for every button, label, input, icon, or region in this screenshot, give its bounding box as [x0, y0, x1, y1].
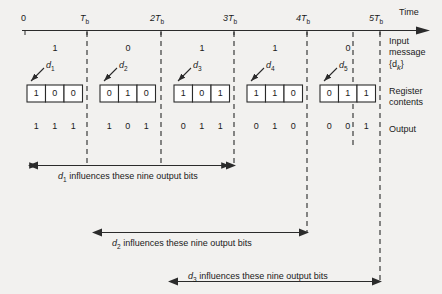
input-bit-5: 0 — [338, 44, 358, 53]
output-bit: 0 — [320, 122, 339, 131]
output-bit: 0 — [119, 122, 138, 131]
output-bit: 0 — [247, 122, 266, 131]
axis-tick-2tb: 2Tb — [150, 14, 164, 25]
output-bit: 0 — [339, 122, 358, 131]
register-cell: 1 — [247, 89, 266, 98]
output-bit: 0 — [174, 122, 193, 131]
register-cell: 0 — [137, 89, 156, 98]
time-axis — [22, 27, 430, 36]
axis-tick-5tb: 5Tb — [369, 14, 383, 25]
register-cell: 0 — [64, 89, 83, 98]
span-arrow-d1 — [28, 162, 236, 170]
axis-tick-3tb: 3Tb — [223, 14, 237, 25]
input-bit-2: 0 — [118, 44, 138, 53]
d-label-1: d1 — [46, 61, 55, 72]
span-caption-d2: d2 influences these nine output bits — [112, 239, 252, 250]
register-cell: 1 — [119, 89, 138, 98]
axis-tick-4tb: 4Tb — [296, 14, 310, 25]
register-cell: 0 — [193, 89, 212, 98]
register-cell: 1 — [266, 89, 285, 98]
register-cell: 1 — [211, 89, 230, 98]
span-arrow-d2 — [92, 229, 309, 237]
output-bit: 1 — [193, 122, 212, 131]
d-label-5: d5 — [339, 61, 348, 72]
axis-tick-1tb: Tb — [80, 14, 89, 25]
d-label-2: d2 — [119, 61, 128, 72]
register-cell: 0 — [284, 89, 303, 98]
register-cell: 0 — [320, 89, 339, 98]
span-caption-d1: d1 influences these nine output bits — [58, 172, 198, 183]
axis-title-time: Time — [399, 8, 419, 17]
input-bit-4: 1 — [265, 44, 285, 53]
output-bit: 1 — [211, 122, 230, 131]
span-caption-d3: d3 influences these nine output bits — [188, 272, 328, 283]
side-label-output: Output — [389, 124, 416, 135]
axis-tick-0: 0 — [21, 14, 26, 25]
d-label-3: d3 — [193, 61, 202, 72]
d-label-4: d4 — [266, 61, 275, 72]
input-bit-3: 1 — [192, 44, 212, 53]
output-bit: 1 — [137, 122, 156, 131]
input-bit-1: 1 — [45, 44, 65, 53]
register-cell: 1 — [339, 89, 358, 98]
register-cell: 0 — [100, 89, 119, 98]
output-bit: 0 — [284, 122, 303, 131]
output-bit: 1 — [357, 122, 376, 131]
register-cell: 1 — [357, 89, 376, 98]
output-bit: 1 — [27, 122, 46, 131]
side-label-register-contents: Register contents — [389, 86, 423, 109]
register-cell: 1 — [27, 89, 46, 98]
output-bit: 1 — [266, 122, 285, 131]
register-cell: 0 — [46, 89, 65, 98]
output-bit: 1 — [64, 122, 83, 131]
register-cell: 1 — [174, 89, 193, 98]
side-label-input-message: Input message {dk} — [389, 36, 426, 72]
d-pointer-arrows — [31, 68, 337, 81]
figure-canvas: 0 Tb 2Tb 3Tb 4Tb 5Tb Time Input message … — [0, 0, 442, 294]
output-bit: 1 — [100, 122, 119, 131]
output-bit: 1 — [46, 122, 65, 131]
